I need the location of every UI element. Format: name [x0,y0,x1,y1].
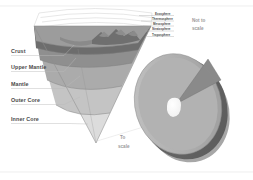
atmosphere-label-exosphere-text: Exosphere [155,12,171,16]
interior-label-crust-text: Crust [11,48,26,54]
not-to-scale-line2: scale [192,26,204,31]
atmosphere-label-stratosphere-text: Stratosphere [152,27,171,31]
atmosphere-label-troposphere-text: Troposphere [152,33,171,37]
not-to-scale-line1: Not to [192,18,205,23]
earth-structure-figure: Crust Upper Mantle Mantle Outer Core Inn… [0,0,253,180]
atmosphere-label-mesosphere-text: Mesosphere [153,22,171,26]
diagram-canvas: Crust Upper Mantle Mantle Outer Core Inn… [0,0,253,180]
interior-label-inner-core-text: Inner Core [11,116,39,122]
to-scale-line2: scale [118,144,130,149]
atmosphere-label-thermosphere-text: Thermosphere [152,17,173,21]
interior-label-upper-mantle-text: Upper Mantle [11,64,46,70]
to-scale-line1: To [120,135,125,140]
interior-label-mantle-text: Mantle [11,81,29,87]
interior-label-outer-core-text: Outer Core [11,97,40,103]
atmosphere-label-troposphere: Troposphere [147,33,174,37]
